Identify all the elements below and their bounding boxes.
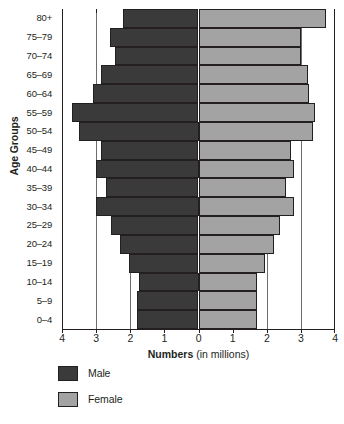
y-axis-tick-label: 75–79 [27, 32, 52, 42]
legend-label: Male [88, 367, 110, 379]
x-axis-title: Numbers (in millions) [62, 348, 335, 360]
pyramid-row [62, 178, 335, 197]
x-axis-tick-label: 1 [222, 332, 244, 344]
x-axis-title-bold: Numbers [148, 348, 194, 360]
bar-female [199, 122, 313, 141]
bar-female [199, 254, 266, 273]
legend-label: Female [88, 393, 122, 405]
bar-female [199, 273, 257, 292]
bar-female [199, 84, 310, 103]
x-axis-tick-label: 3 [85, 332, 107, 344]
y-axis-tick-label: 5–9 [37, 296, 52, 306]
y-axis-tick-label: 80+ [36, 13, 52, 23]
pyramid-row [62, 65, 335, 84]
bar-male [101, 141, 198, 160]
x-axis-tick-label: 0 [188, 332, 210, 344]
x-axis-tick-label: 1 [153, 332, 175, 344]
pyramid-row [62, 291, 335, 310]
x-axis-tick-label: 3 [290, 332, 312, 344]
x-axis-tick-labels: 432101234 [62, 332, 335, 348]
pyramid-row [62, 47, 335, 66]
female-swatch [58, 392, 78, 407]
pyramid-row [62, 160, 335, 179]
bar-male [137, 310, 198, 329]
pyramid-row [62, 216, 335, 235]
bar-female [199, 216, 281, 235]
bar-male [93, 84, 199, 103]
y-axis-tick-label: 20–24 [27, 239, 52, 249]
bar-male [101, 65, 198, 84]
bar-female [199, 47, 301, 66]
pyramid-row [62, 197, 335, 216]
bar-male [139, 273, 199, 292]
pyramid-row [62, 254, 335, 273]
x-axis-title-rest: (in millions) [193, 348, 249, 360]
bar-female [199, 9, 327, 28]
y-axis-tick-label: 50–54 [27, 126, 52, 136]
bar-female [199, 65, 308, 84]
y-axis-tick-label: 40–44 [27, 164, 52, 174]
pyramid-row [62, 310, 335, 329]
x-axis-tick-label: 2 [119, 332, 141, 344]
y-axis-tick-label: 45–49 [27, 145, 52, 155]
bar-male [96, 197, 198, 216]
bar-female [199, 178, 286, 197]
pyramid-row [62, 28, 335, 47]
pyramid-row [62, 103, 335, 122]
pyramid-row [62, 273, 335, 292]
bar-female [199, 291, 257, 310]
chart-legend: MaleFemale [58, 366, 258, 418]
bar-female [199, 141, 291, 160]
bar-male [110, 28, 199, 47]
legend-item: Female [58, 392, 258, 418]
bar-male [137, 291, 198, 310]
y-axis-tick-label: 0–4 [37, 315, 52, 325]
population-pyramid-chart: Age Groups 80+75–7970–7465–6960–6455–595… [0, 0, 344, 424]
y-axis-tick-label: 65–69 [27, 70, 52, 80]
bar-female [199, 160, 295, 179]
bar-male [106, 178, 198, 197]
bar-female [199, 197, 295, 216]
x-axis-tick-label: 4 [324, 332, 344, 344]
legend-item: Male [58, 366, 258, 392]
y-axis-tick-label: 15–19 [27, 258, 52, 268]
y-axis-tick-label: 30–34 [27, 202, 52, 212]
bar-male [96, 160, 198, 179]
bar-female [199, 103, 315, 122]
bar-male [120, 235, 198, 254]
bar-male [111, 216, 198, 235]
y-axis-tick-label: 60–64 [27, 89, 52, 99]
male-swatch [58, 366, 78, 381]
plot-area [62, 9, 335, 329]
y-axis-tick-labels: 80+75–7970–7465–6960–6455–5950–5445–4940… [6, 9, 54, 329]
y-axis-tick-label: 10–14 [27, 277, 52, 287]
bar-male [72, 103, 198, 122]
bar-male [123, 9, 198, 28]
x-axis-tick-label: 2 [256, 332, 278, 344]
pyramid-row [62, 141, 335, 160]
y-axis-tick-label: 35–39 [27, 183, 52, 193]
bar-male [115, 47, 199, 66]
y-axis-tick-label: 25–29 [27, 220, 52, 230]
bar-female [199, 28, 301, 47]
y-axis-tick-label: 55–59 [27, 108, 52, 118]
pyramid-row [62, 235, 335, 254]
bar-male [79, 122, 198, 141]
pyramid-row [62, 122, 335, 141]
bar-female [199, 235, 274, 254]
x-axis-tick-label: 4 [51, 332, 73, 344]
pyramid-row [62, 84, 335, 103]
bar-male [129, 254, 199, 273]
pyramid-row [62, 9, 335, 28]
y-axis-tick-label: 70–74 [27, 51, 52, 61]
bar-female [199, 310, 257, 329]
